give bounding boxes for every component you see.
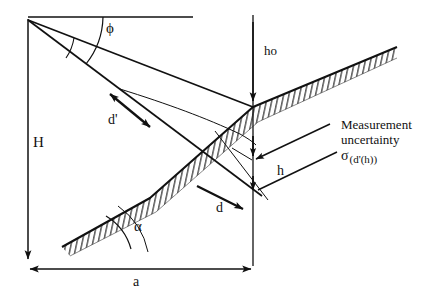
label-height-h: h [277,163,284,179]
label-distance-d: d [216,200,223,216]
annotation-line-2: uncertainty [341,133,412,148]
label-angle-alpha: α [134,218,142,235]
label-height-H: H [33,134,44,151]
sigma-subscript: (d'(h)) [350,153,378,165]
uncertainty-leader-lower [258,152,337,190]
diagram-canvas: H ϕ d' ho h d α a Measurement uncertaint… [0,0,432,300]
measurement-uncertainty-annotation: Measurement uncertainty σ(d'(h)) [341,118,412,164]
label-baseline-a: a [133,274,139,290]
annotation-line-1: Measurement [341,118,412,133]
sight-ray-upper [28,20,253,107]
label-height-ho: ho [264,44,277,59]
sight-ray-lower [28,20,262,196]
label-angle-phi: ϕ [106,20,114,37]
label-distance-d-prime: d' [108,112,118,128]
sigma-symbol: σ [341,148,349,163]
annotation-sigma-expression: σ(d'(h)) [341,148,412,164]
uncertainty-leader-upper [256,124,330,159]
uncertainty-fan-lines [215,131,268,200]
angle-phi-arc [66,17,103,64]
